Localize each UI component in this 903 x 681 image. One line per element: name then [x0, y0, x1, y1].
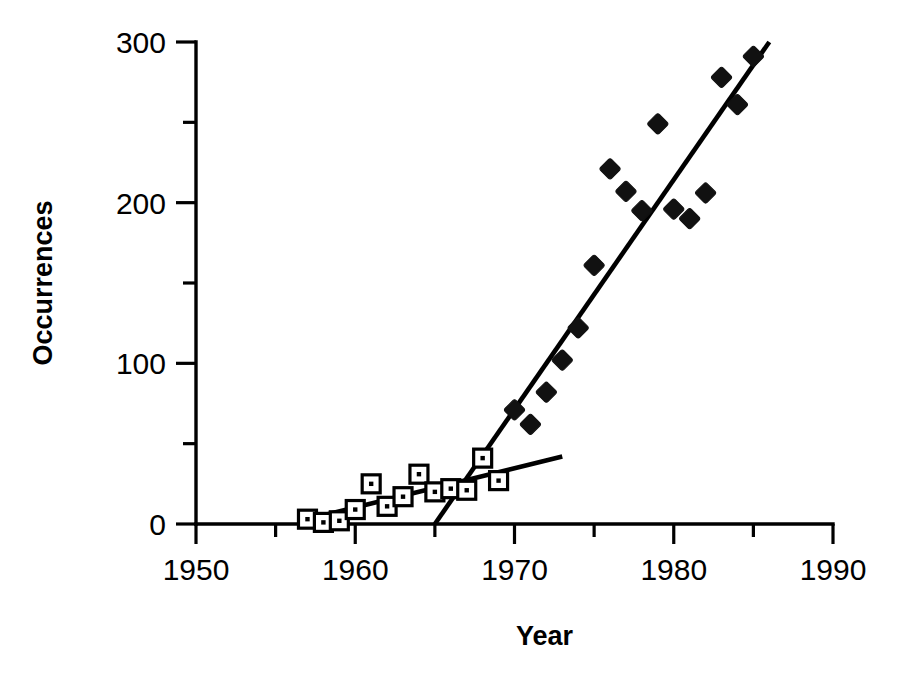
y-tick-label: 200 [116, 187, 166, 220]
data-point-center-dot [401, 494, 405, 498]
x-tick-label: 1960 [322, 553, 389, 586]
y-tick-label: 0 [149, 508, 166, 541]
data-point-center-dot [417, 472, 421, 476]
data-point-filled-diamond [695, 182, 717, 204]
data-point-filled-diamond [535, 381, 557, 403]
data-point-center-dot [480, 456, 484, 460]
data-points [298, 45, 764, 531]
data-point-filled-diamond [599, 158, 621, 180]
data-point-center-dot [337, 519, 341, 523]
data-point-filled-diamond [583, 254, 605, 276]
x-tick-label: 1970 [481, 553, 548, 586]
scatter-plot: 195019601970198019900100200300YearOccurr… [0, 0, 903, 681]
x-tick-label: 1990 [800, 553, 867, 586]
data-point-center-dot [369, 482, 373, 486]
data-point-center-dot [321, 520, 325, 524]
y-tick-label: 300 [116, 26, 166, 59]
data-point-center-dot [449, 486, 453, 490]
chart-figure: 195019601970198019900100200300YearOccurr… [0, 0, 903, 681]
axis-labels: 195019601970198019900100200300YearOccurr… [28, 26, 866, 651]
x-tick-label: 1980 [640, 553, 707, 586]
data-point-filled-diamond [647, 113, 669, 135]
y-tick-label: 100 [116, 347, 166, 380]
data-point-center-dot [305, 517, 309, 521]
data-point-filled-diamond [615, 180, 637, 202]
data-point-center-dot [353, 507, 357, 511]
x-axis-title: Year [516, 621, 574, 651]
x-tick-label: 1950 [163, 553, 230, 586]
data-point-center-dot [433, 490, 437, 494]
data-point-filled-diamond [519, 413, 541, 435]
data-point-center-dot [465, 488, 469, 492]
data-point-filled-diamond [711, 66, 733, 88]
data-point-center-dot [496, 478, 500, 482]
trend-lines [307, 42, 769, 524]
data-point-filled-diamond [742, 45, 764, 67]
y-axis-title: Occurrences [28, 200, 58, 365]
data-point-filled-diamond [567, 317, 589, 339]
data-point-center-dot [385, 504, 389, 508]
